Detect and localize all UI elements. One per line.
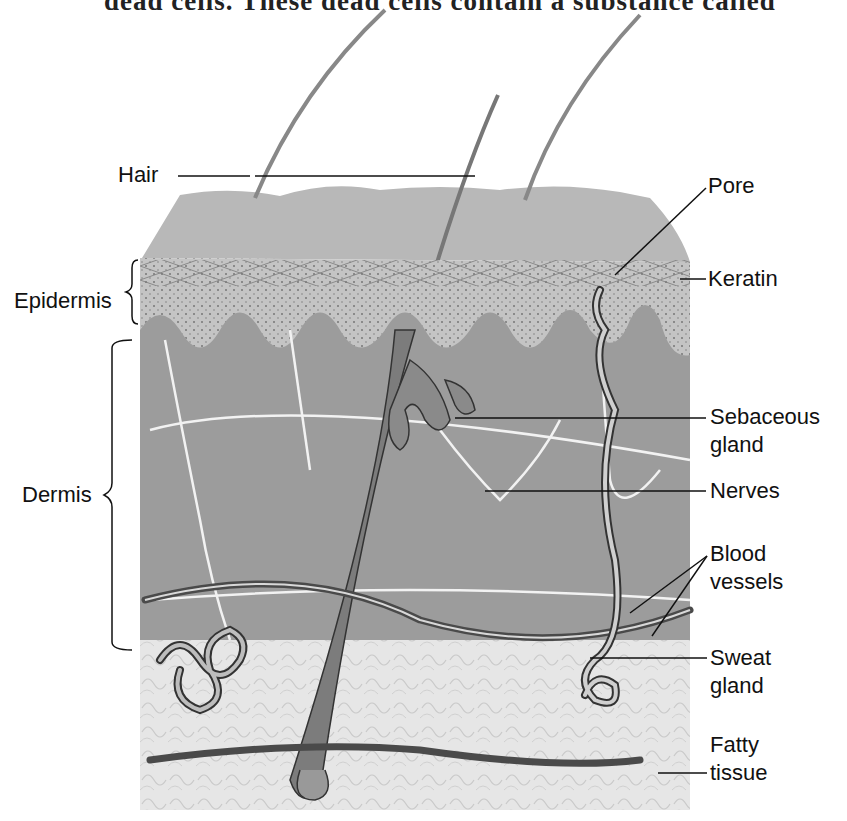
label-pore: Pore — [708, 173, 754, 199]
keratin-layer — [140, 260, 690, 286]
label-keratin: Keratin — [708, 266, 778, 292]
skin-surface — [142, 186, 690, 262]
label-nerves: Nerves — [710, 478, 780, 504]
label-blood-1: Blood — [710, 541, 766, 567]
dermis-brace — [104, 340, 132, 650]
epidermis-brace — [126, 260, 138, 324]
label-epidermis: Epidermis — [14, 288, 112, 314]
label-fatty-1: Fatty — [710, 732, 759, 758]
label-fatty-2: tissue — [710, 760, 767, 786]
label-sweat-2: gland — [710, 673, 764, 699]
fatty-tissue-region — [140, 640, 690, 810]
label-sebaceous-1: Sebaceous — [710, 404, 820, 430]
label-sebaceous-2: gland — [710, 432, 764, 458]
label-dermis: Dermis — [22, 482, 92, 508]
hair-strand-left — [255, 10, 385, 198]
label-sweat-1: Sweat — [710, 645, 771, 671]
label-hair: Hair — [118, 162, 158, 188]
hair-strand-right — [525, 15, 640, 200]
label-blood-2: vessels — [710, 569, 783, 595]
